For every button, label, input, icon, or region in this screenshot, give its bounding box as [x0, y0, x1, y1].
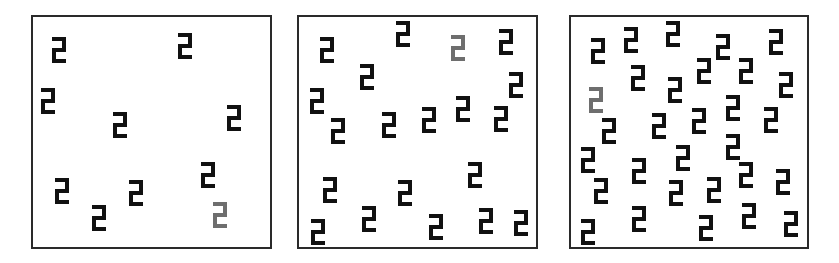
distractor-glyph-icon — [41, 88, 55, 114]
distractor-glyph-icon — [581, 219, 595, 245]
distractor-glyph-icon — [699, 215, 713, 241]
distractor-glyph-icon — [779, 72, 793, 98]
search-panel-2 — [297, 15, 538, 249]
distractor-glyph-icon — [676, 145, 690, 171]
distractor-glyph-icon — [594, 178, 608, 204]
distractor-glyph-icon — [360, 64, 374, 90]
distractor-glyph-icon — [429, 214, 443, 240]
distractor-glyph-icon — [129, 180, 143, 206]
distractor-glyph-icon — [362, 206, 376, 232]
distractor-glyph-icon — [632, 158, 646, 184]
distractor-glyph-icon — [668, 77, 682, 103]
distractor-glyph-icon — [331, 118, 345, 144]
distractor-glyph-icon — [55, 178, 69, 204]
distractor-glyph-icon — [602, 118, 616, 144]
distractor-glyph-icon — [382, 112, 396, 138]
distractor-glyph-icon — [468, 162, 482, 188]
distractor-glyph-icon — [514, 210, 528, 236]
distractor-glyph-icon — [52, 37, 66, 63]
distractor-glyph-icon — [92, 205, 106, 231]
distractor-glyph-icon — [591, 38, 605, 64]
distractor-glyph-icon — [323, 177, 337, 203]
distractor-glyph-icon — [509, 72, 523, 98]
search-panel-3 — [569, 15, 809, 249]
distractor-glyph-icon — [769, 29, 783, 55]
distractor-glyph-icon — [652, 113, 666, 139]
distractor-glyph-icon — [764, 107, 778, 133]
distractor-glyph-icon — [716, 34, 730, 60]
distractor-glyph-icon — [398, 180, 412, 206]
distractor-glyph-icon — [581, 147, 595, 173]
distractor-glyph-icon — [692, 108, 706, 134]
search-panel-1 — [31, 15, 272, 249]
distractor-glyph-icon — [666, 21, 680, 47]
distractor-glyph-icon — [201, 162, 215, 188]
distractor-glyph-icon — [631, 65, 645, 91]
target-glyph-icon — [589, 87, 603, 113]
distractor-glyph-icon — [311, 219, 325, 245]
distractor-glyph-icon — [499, 29, 513, 55]
distractor-glyph-icon — [178, 33, 192, 59]
distractor-glyph-icon — [669, 180, 683, 206]
distractor-glyph-icon — [320, 37, 334, 63]
target-glyph-icon — [213, 202, 227, 228]
distractor-glyph-icon — [113, 112, 127, 138]
distractor-glyph-icon — [624, 27, 638, 53]
distractor-glyph-icon — [742, 203, 756, 229]
distractor-glyph-icon — [422, 107, 436, 133]
distractor-glyph-icon — [776, 169, 790, 195]
distractor-glyph-icon — [726, 134, 740, 160]
distractor-glyph-icon — [310, 88, 324, 114]
distractor-glyph-icon — [697, 58, 711, 84]
distractor-glyph-icon — [726, 95, 740, 121]
distractor-glyph-icon — [739, 162, 753, 188]
distractor-glyph-icon — [707, 177, 721, 203]
distractor-glyph-icon — [494, 106, 508, 132]
target-glyph-icon — [451, 35, 465, 61]
distractor-glyph-icon — [632, 206, 646, 232]
distractor-glyph-icon — [479, 208, 493, 234]
distractor-glyph-icon — [739, 58, 753, 84]
distractor-glyph-icon — [227, 105, 241, 131]
distractor-glyph-icon — [456, 96, 470, 122]
distractor-glyph-icon — [396, 21, 410, 47]
distractor-glyph-icon — [784, 211, 798, 237]
